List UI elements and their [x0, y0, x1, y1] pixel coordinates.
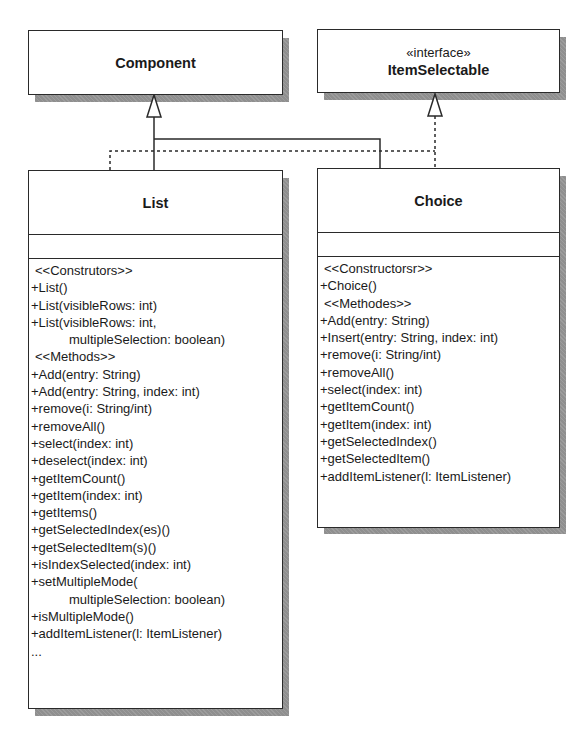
operation: +getItemCount() [320, 398, 559, 415]
operation: +Add(entry: String) [320, 312, 559, 329]
operation: +remove(i: String/int) [31, 400, 282, 417]
attributes-compartment [29, 235, 282, 259]
stereotype-label: <<Construtors>> [31, 262, 282, 279]
class-choice[interactable]: Choice <<Constructorsr>>+Choice()<<Metho… [317, 168, 560, 528]
operation: +addItemListener(l: ItemListener) [320, 468, 559, 485]
generalization-lines [154, 116, 380, 170]
realization-lines [110, 116, 435, 170]
operation: +deselect(index: int) [31, 452, 282, 469]
operation: +getItemCount() [31, 470, 282, 487]
operation: ... [31, 643, 282, 660]
name-compartment: List [29, 171, 282, 235]
class-component[interactable]: Component [28, 30, 283, 95]
class-name: List [143, 195, 169, 211]
name-compartment: Choice [318, 169, 559, 233]
operation: +isMultipleMode() [31, 608, 282, 625]
attributes-compartment [318, 233, 559, 257]
operation: +select(index: int) [31, 435, 282, 452]
operation: multipleSelection: boolean) [31, 591, 282, 608]
generalization-arrowhead [147, 95, 161, 117]
class-name: Choice [414, 193, 462, 209]
stereotype-label: «interface» [406, 45, 470, 60]
operations-compartment: <<Construtors>>+List()+List(visibleRows:… [29, 259, 282, 660]
stereotype-label: <<Methods>> [31, 348, 282, 365]
stereotype-label: <<Methodes>> [320, 295, 559, 312]
operation: +setMultipleMode( [31, 573, 282, 590]
operation: +Choice() [320, 277, 559, 294]
operation: +getItem(index: int) [31, 487, 282, 504]
class-name: Component [115, 55, 196, 71]
stereotype-label: <<Constructorsr>> [320, 260, 559, 277]
operation: multipleSelection: boolean) [31, 331, 282, 348]
operation: +List(visibleRows: int) [31, 297, 282, 314]
operation: +getSelectedItem(s)() [31, 539, 282, 556]
operation: +removeAll() [320, 364, 559, 381]
operation: +getSelectedIndex(es)() [31, 521, 282, 538]
operation: +List() [31, 279, 282, 296]
operation: +Add(entry: String, index: int) [31, 383, 282, 400]
operation: +addItemListener(l: ItemListener) [31, 625, 282, 642]
realization-arrowhead [428, 94, 442, 116]
class-list[interactable]: List <<Construtors>>+List()+List(visible… [28, 170, 283, 709]
operation: +removeAll() [31, 418, 282, 435]
operation: +getItem(index: int) [320, 416, 559, 433]
operation: +getSelectedItem() [320, 450, 559, 467]
operation: +Add(entry: String) [31, 366, 282, 383]
operation: +List(visibleRows: int, [31, 314, 282, 331]
operation: +select(index: int) [320, 381, 559, 398]
operation: +getSelectedIndex() [320, 433, 559, 450]
operation: +Insert(entry: String, index: int) [320, 329, 559, 346]
operation: +getItems() [31, 504, 282, 521]
class-name: ItemSelectable [388, 62, 490, 78]
operation: +remove(i: String/int) [320, 346, 559, 363]
interface-item-selectable[interactable]: «interface» ItemSelectable [317, 29, 560, 93]
operations-compartment: <<Constructorsr>>+Choice()<<Methodes>>+A… [318, 257, 559, 485]
operation: +isIndexSelected(index: int) [31, 556, 282, 573]
